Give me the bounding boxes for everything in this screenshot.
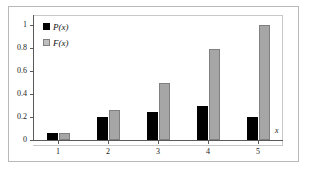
y-tick-mark <box>30 25 33 26</box>
x-tick-mark <box>208 141 209 144</box>
y-tick-mark <box>30 94 33 95</box>
legend-item-f: F(x) <box>43 36 69 49</box>
chart-legend: P(x) F(x) <box>43 20 69 52</box>
y-tick-mark <box>30 117 33 118</box>
y-tick-mark <box>30 71 33 72</box>
plot-area-frame <box>33 15 283 146</box>
legend-swatch-f-icon <box>43 39 50 46</box>
legend-swatch-p-icon <box>43 23 50 30</box>
bar-px-4 <box>197 106 208 140</box>
x-tick-mark <box>258 141 259 144</box>
bar-px-2 <box>97 117 108 140</box>
bar-px-1 <box>47 133 58 140</box>
y-tick-label: 0.8 <box>0 44 27 52</box>
x-tick-mark <box>108 141 109 144</box>
x-tick-label: 2 <box>98 147 118 156</box>
x-tick-label: 3 <box>148 147 168 156</box>
bar-fx-2 <box>109 110 120 140</box>
x-tick-label: 1 <box>48 147 68 156</box>
bar-fx-3 <box>159 83 170 140</box>
figure: 00.20.40.60.81 12345 x P(x) F(x) <box>0 0 309 171</box>
y-tick-mark <box>30 48 33 49</box>
x-tick-mark <box>58 141 59 144</box>
y-tick-label: 0.2 <box>0 113 27 121</box>
y-tick-label: 0 <box>0 136 27 144</box>
bar-fx-5 <box>259 25 270 140</box>
y-tick-mark <box>30 140 33 141</box>
y-tick-label: 0.4 <box>0 90 27 98</box>
x-tick-label: 5 <box>248 147 268 156</box>
bar-px-5 <box>247 117 258 140</box>
bar-fx-1 <box>59 133 70 140</box>
x-tick-label: 4 <box>198 147 218 156</box>
bar-px-3 <box>147 112 158 140</box>
y-tick-label: 1 <box>0 21 27 29</box>
legend-label-p: P(x) <box>53 22 69 32</box>
y-axis-line <box>33 15 34 141</box>
y-tick-label: 0.6 <box>0 67 27 75</box>
bar-fx-4 <box>209 49 220 140</box>
x-axis-label: x <box>275 126 279 135</box>
legend-label-f: F(x) <box>53 38 69 48</box>
x-tick-mark <box>158 141 159 144</box>
legend-item-p: P(x) <box>43 20 69 33</box>
